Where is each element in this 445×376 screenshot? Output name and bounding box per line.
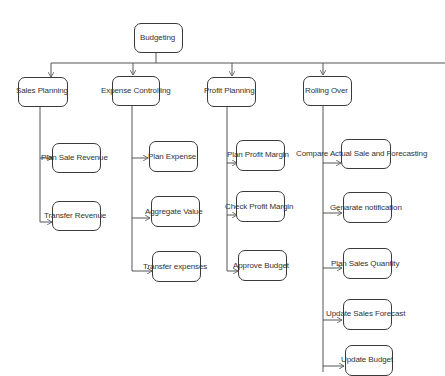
label-plan-expense: Plan Expense bbox=[148, 152, 196, 162]
label-compare-actual-sale: Compare Actual Sale and Forecasting bbox=[296, 149, 427, 159]
label-plan-sales-quantity: Plan Sales Quantity bbox=[331, 259, 399, 269]
label-profit-planning: Profit Planning bbox=[204, 86, 255, 96]
label-aggregate-value: Aggregate Value bbox=[145, 207, 203, 217]
label-transfer-expenses: Transfer expenses bbox=[143, 262, 207, 272]
label-check-profit-margin: Check Profit Margin bbox=[225, 202, 293, 212]
label-transfer-revenue: Transfer Revenue bbox=[44, 211, 106, 221]
label-update-sales-forecast: Update Sales Forecast bbox=[326, 309, 405, 319]
label-rolling-over: Rolling Over bbox=[305, 86, 348, 96]
label-budgeting: Budgeting bbox=[140, 33, 175, 43]
label-approve-budget: Approve Budget bbox=[233, 261, 289, 271]
label-generate-notification: Genarate notification bbox=[330, 203, 402, 213]
label-plan-sale-revenue: Plan Sale Revenue bbox=[41, 153, 108, 163]
label-expense-controlling: Expense Controlling bbox=[101, 86, 171, 96]
label-update-budget: Update Budget bbox=[341, 355, 393, 365]
label-sales-planning: Sales Planning bbox=[16, 86, 68, 96]
label-plan-profit-margin: Plan Profit Margin bbox=[227, 150, 289, 160]
